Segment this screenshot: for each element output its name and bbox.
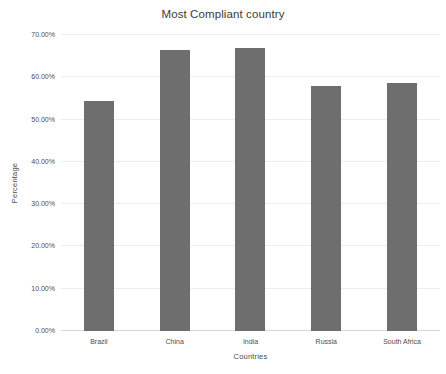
x-tick-label: Brazil — [90, 338, 108, 345]
bar — [387, 83, 417, 331]
y-tick-label: 30.00% — [31, 200, 55, 207]
y-tick-label: 10.00% — [31, 284, 55, 291]
x-tick-label: China — [166, 338, 184, 345]
bar-group: China — [137, 35, 213, 331]
bar — [84, 101, 114, 331]
bar-chart-figure: Most Compliant country Percentage 0.00%1… — [0, 0, 446, 374]
x-axis-title: Countries — [61, 352, 440, 361]
chart-title: Most Compliant country — [0, 8, 446, 20]
y-tick-label: 50.00% — [31, 115, 55, 122]
x-tick-label: South Africa — [383, 338, 421, 345]
bar — [160, 50, 190, 331]
y-tick-label: 20.00% — [31, 242, 55, 249]
bar-group: Brazil — [61, 35, 137, 331]
bar-group: Russia — [288, 35, 364, 331]
bar — [311, 86, 341, 331]
bar-group: South Africa — [364, 35, 440, 331]
y-tick-label: 40.00% — [31, 157, 55, 164]
y-axis-title: Percentage — [10, 163, 19, 203]
x-tick-label: India — [243, 338, 258, 345]
bar-group: India — [213, 35, 289, 331]
y-tick-label: 60.00% — [31, 73, 55, 80]
bars-layer: BrazilChinaIndiaRussiaSouth Africa — [61, 35, 440, 331]
x-tick-label: Russia — [316, 338, 337, 345]
plot-area: 0.00%10.00%20.00%30.00%40.00%50.00%60.00… — [61, 35, 440, 331]
bar — [235, 48, 265, 331]
y-tick-label: 0.00% — [35, 327, 55, 334]
y-tick-label: 70.00% — [31, 31, 55, 38]
